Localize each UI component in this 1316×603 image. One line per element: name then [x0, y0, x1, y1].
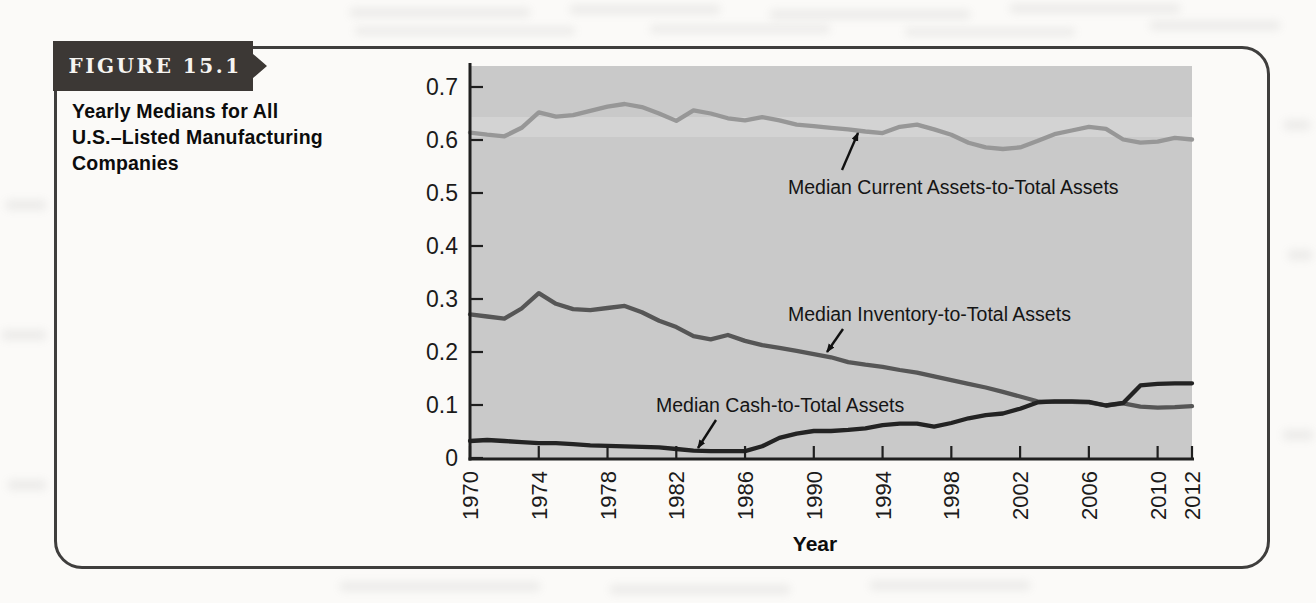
x-tick-label: 2010	[1146, 471, 1171, 520]
y-tick-label: 0	[445, 445, 458, 471]
x-tick-label: 1994	[871, 471, 896, 520]
page-background: FIGURE 15.1 Yearly Medians for All U.S.–…	[0, 0, 1316, 603]
x-tick-label: 1986	[733, 471, 758, 520]
x-tick-label: 1970	[458, 471, 483, 520]
annotation-label: Median Cash-to-Total Assets	[656, 394, 904, 416]
x-axis-title: Year	[793, 532, 837, 555]
figure-badge: FIGURE 15.1	[53, 41, 267, 91]
figure-badge-label: FIGURE 15.1	[68, 54, 241, 78]
x-tick-label: 2012	[1180, 471, 1205, 520]
annotation-label: Median Current Assets-to-Total Assets	[788, 176, 1119, 198]
y-tick-label: 0.5	[426, 180, 458, 206]
y-tick-label: 0.6	[426, 127, 458, 153]
x-tick-label: 1974	[527, 471, 552, 520]
x-tick-label: 2002	[1008, 471, 1033, 520]
x-tick-label: 1982	[664, 471, 689, 520]
annotation-label: Median Inventory-to-Total Assets	[788, 303, 1071, 325]
y-tick-label: 0.3	[426, 286, 458, 312]
y-tick-label: 0.2	[426, 339, 458, 365]
y-tick-label: 0.7	[426, 74, 458, 100]
y-tick-label: 0.4	[426, 233, 458, 259]
x-tick-label: 2006	[1077, 471, 1102, 520]
x-tick-label: 1990	[802, 471, 827, 520]
y-tick-label: 0.1	[426, 392, 458, 418]
x-tick-label: 1998	[939, 471, 964, 520]
x-tick-label: 1978	[596, 471, 621, 520]
